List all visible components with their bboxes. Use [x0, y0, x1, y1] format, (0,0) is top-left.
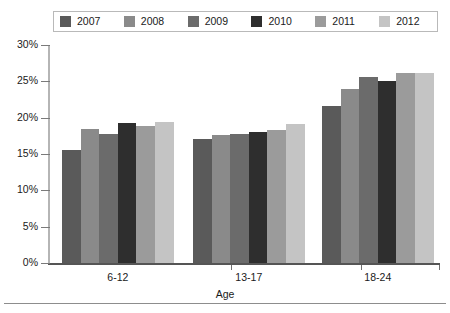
x-axis-category-label: 6-12 — [107, 271, 128, 283]
legend-item[interactable]: 2008 — [118, 16, 182, 27]
bar[interactable] — [118, 123, 137, 263]
legend-swatch-icon — [379, 16, 390, 27]
y-axis-label: 5% — [0, 220, 38, 232]
bar[interactable] — [230, 134, 249, 263]
x-axis-tick — [361, 265, 362, 270]
y-axis-label: 30% — [0, 38, 38, 50]
legend-swatch-icon — [188, 16, 199, 27]
y-axis-tick — [41, 190, 50, 191]
x-axis-tick — [439, 265, 440, 270]
bar-group: 6-12 — [62, 45, 174, 263]
legend-item[interactable]: 2007 — [54, 16, 118, 27]
legend-label: 2008 — [141, 16, 164, 27]
bar-group: 18-24 — [322, 45, 434, 263]
bar[interactable] — [155, 122, 174, 263]
bar[interactable] — [322, 106, 341, 263]
bar[interactable] — [99, 134, 118, 263]
bar[interactable] — [81, 129, 100, 263]
y-axis-label: 0% — [0, 256, 38, 268]
bar[interactable] — [267, 130, 286, 263]
plot-area: 0%5%10%15%20%25%30% 6-1213-1718-24 — [48, 45, 440, 265]
legend-label: 2007 — [77, 16, 100, 27]
bar[interactable] — [341, 89, 360, 263]
y-axis-label: 15% — [0, 147, 38, 159]
legend-label: 2009 — [205, 16, 228, 27]
chart-legend: 200720082009201020112012 — [53, 11, 438, 32]
legend-swatch-icon — [60, 16, 71, 27]
legend-item[interactable]: 2012 — [373, 16, 437, 27]
bar[interactable] — [378, 81, 397, 263]
y-axis-tick — [41, 263, 50, 264]
bar[interactable] — [193, 139, 212, 263]
x-axis-category-label: 13-17 — [235, 271, 262, 283]
y-axis-label: 25% — [0, 74, 38, 86]
y-axis-label: 20% — [0, 111, 38, 123]
bar[interactable] — [136, 126, 155, 263]
y-axis-tick — [41, 118, 50, 119]
bar-chart: 200720082009201020112012 0%5%10%15%20%25… — [0, 0, 450, 313]
bar[interactable] — [415, 73, 434, 263]
y-axis-tick — [41, 227, 50, 228]
legend-label: 2010 — [268, 16, 291, 27]
legend-label: 2011 — [332, 16, 355, 27]
legend-item[interactable]: 2009 — [182, 16, 246, 27]
legend-label: 2012 — [396, 16, 419, 27]
legend-swatch-icon — [251, 16, 262, 27]
bottom-divider — [4, 303, 446, 304]
y-axis-tick — [41, 45, 50, 46]
bar-group: 13-17 — [193, 45, 305, 263]
legend-swatch-icon — [124, 16, 135, 27]
bar[interactable] — [212, 135, 231, 263]
x-axis-tick — [231, 265, 232, 270]
bar[interactable] — [359, 77, 378, 263]
x-axis-category-label: 18-24 — [364, 271, 391, 283]
bar[interactable] — [396, 73, 415, 263]
y-axis-tick — [41, 81, 50, 82]
legend-item[interactable]: 2011 — [309, 16, 373, 27]
bar[interactable] — [249, 132, 268, 263]
y-axis-tick — [41, 154, 50, 155]
bar[interactable] — [286, 124, 305, 263]
legend-swatch-icon — [315, 16, 326, 27]
bar[interactable] — [62, 150, 81, 263]
x-axis-line — [48, 263, 440, 265]
y-axis-label: 10% — [0, 183, 38, 195]
y-axis-line — [48, 45, 50, 265]
x-axis-title: Age — [0, 288, 450, 300]
legend-item[interactable]: 2010 — [245, 16, 309, 27]
